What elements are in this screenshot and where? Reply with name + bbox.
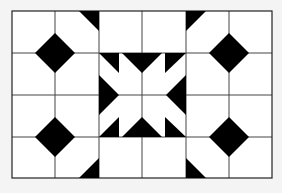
quilt-pattern-diagram <box>0 0 282 193</box>
